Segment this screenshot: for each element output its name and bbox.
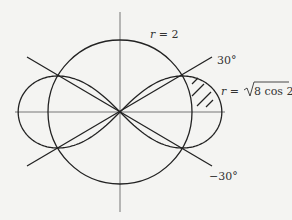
angle-neg30-label: −30° — [209, 170, 238, 183]
lemniscate-label: r = 8 cos 2θ — [221, 82, 292, 98]
circle-label: r = 2 — [150, 28, 178, 41]
svg-text:r =: r = — [221, 85, 239, 98]
angle-30-label: 30° — [217, 54, 237, 67]
polar-diagram: r = 2 30° −30° r = 8 cos 2θ — [0, 0, 292, 220]
shaded-region-hatching — [192, 78, 213, 107]
svg-text:8 cos 2θ: 8 cos 2θ — [254, 85, 292, 98]
